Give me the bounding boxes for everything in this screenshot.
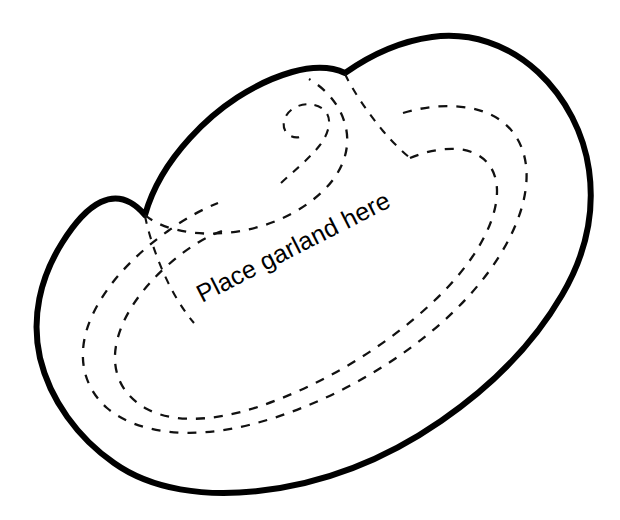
- garland-label: Place garland here: [192, 186, 395, 308]
- crown-spiral-fold-line: [281, 104, 329, 183]
- hat-pattern-illustration: Place garland here: [0, 0, 620, 520]
- brim-outer-fold-line: [83, 106, 527, 433]
- brim-inner-fold-line: [115, 149, 497, 419]
- pattern-canvas: Place garland here: [0, 0, 620, 520]
- hat-outer-outline: [37, 36, 591, 493]
- garland-label-group: Place garland here: [192, 186, 395, 308]
- crown-notch-fold-line: [345, 74, 410, 158]
- brim-left-fold-line: [145, 216, 194, 323]
